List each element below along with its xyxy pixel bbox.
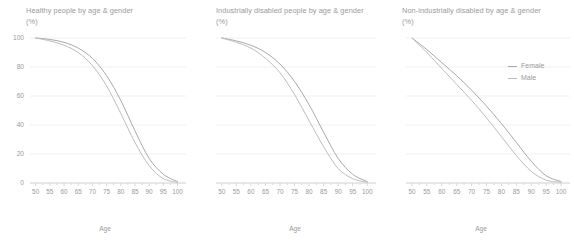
- plot-area: 02040608010050556065707580859095100: [0, 34, 190, 209]
- chart-panel-industrially-disabled: Industrially disabled people by age & ge…: [190, 0, 380, 246]
- x-tick-label: 65: [262, 188, 270, 195]
- chart-page: Healthy people by age & gender (%) 02040…: [0, 0, 574, 246]
- legend-item-female[interactable]: Female: [508, 60, 544, 72]
- panel-title: Industrially disabled people by age & ge…: [216, 6, 376, 27]
- x-tick-label: 70: [276, 188, 284, 195]
- x-tick-label: 95: [349, 188, 357, 195]
- x-tick-label: 90: [146, 188, 154, 195]
- x-tick-label: 55: [46, 188, 54, 195]
- x-tick-label: 75: [291, 188, 299, 195]
- line-swatch-icon: [508, 78, 517, 79]
- plot-area: 50556065707580859095100: [380, 34, 574, 209]
- y-tick-label: 20: [17, 150, 25, 157]
- y-tick-label: 40: [17, 121, 25, 128]
- x-tick-label: 90: [528, 188, 536, 195]
- x-tick-label: 80: [498, 188, 506, 195]
- panel-title: Non-industrially disabled by age & gende…: [402, 6, 570, 27]
- x-tick-label: 65: [75, 188, 83, 195]
- series-line-male: [36, 38, 178, 182]
- x-tick-label: 90: [335, 188, 343, 195]
- plot-svg: 50556065707580859095100: [190, 34, 380, 209]
- line-swatch-icon: [508, 66, 517, 67]
- series-line-female: [222, 38, 367, 182]
- x-tick-label: 60: [60, 188, 68, 195]
- x-tick-label: 75: [483, 188, 491, 195]
- y-tick-label: 100: [13, 34, 24, 41]
- x-tick-label: 50: [408, 188, 416, 195]
- x-tick-label: 70: [89, 188, 97, 195]
- series-line-female: [36, 38, 178, 182]
- y-tick-label: 0: [20, 179, 24, 186]
- plot-svg: 02040608010050556065707580859095100: [0, 34, 190, 209]
- x-tick-label: 85: [513, 188, 521, 195]
- x-tick-label: 80: [117, 188, 125, 195]
- y-tick-label: 80: [17, 63, 25, 70]
- x-tick-label: 60: [438, 188, 446, 195]
- legend-label: Male: [521, 72, 536, 84]
- x-axis-title: Age: [406, 225, 556, 232]
- legend-label: Female: [521, 60, 544, 72]
- panel-title: Healthy people by age & gender (%): [26, 6, 186, 27]
- plot-area: 50556065707580859095100: [190, 34, 380, 209]
- x-tick-label: 100: [362, 188, 373, 195]
- x-tick-label: 95: [160, 188, 168, 195]
- plot-svg: 50556065707580859095100: [380, 34, 574, 209]
- x-tick-label: 100: [172, 188, 183, 195]
- x-axis-title: Age: [220, 225, 370, 232]
- x-tick-label: 75: [103, 188, 111, 195]
- chart-panel-healthy: Healthy people by age & gender (%) 02040…: [0, 0, 190, 246]
- x-tick-label: 50: [218, 188, 226, 195]
- x-tick-label: 55: [423, 188, 431, 195]
- y-tick-label: 60: [17, 92, 25, 99]
- x-tick-label: 95: [543, 188, 551, 195]
- x-tick-label: 65: [453, 188, 461, 195]
- x-tick-label: 70: [468, 188, 476, 195]
- x-tick-label: 60: [247, 188, 255, 195]
- x-tick-label: 80: [306, 188, 314, 195]
- x-tick-label: 85: [320, 188, 328, 195]
- x-tick-label: 100: [556, 188, 567, 195]
- x-tick-label: 50: [32, 188, 40, 195]
- x-axis-title: Age: [30, 225, 180, 232]
- x-tick-label: 55: [233, 188, 241, 195]
- legend: Female Male: [508, 60, 544, 84]
- chart-panel-non-industrially-disabled: Non-industrially disabled by age & gende…: [380, 0, 574, 246]
- series-line-male: [222, 38, 367, 182]
- x-tick-label: 85: [131, 188, 139, 195]
- legend-item-male[interactable]: Male: [508, 72, 544, 84]
